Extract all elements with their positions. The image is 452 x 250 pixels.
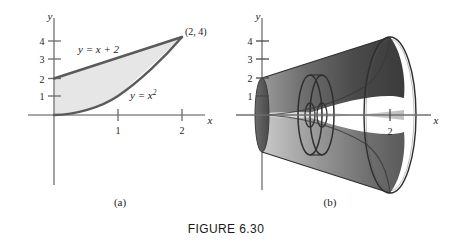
figure-6-30: 1 2 1 2 3 4 x y y = x + 2 y = x2 (2, 4)	[0, 0, 452, 250]
y-tick-label-3: 3	[40, 54, 45, 65]
y-tick-label-2: 2	[248, 73, 253, 84]
x-axis-label: x	[207, 114, 213, 126]
y-tick-label-4: 4	[248, 36, 253, 47]
x-axis-label: x	[433, 114, 439, 126]
panel-b-sublabel: (b)	[300, 196, 360, 208]
y-tick-label-2: 2	[40, 74, 45, 85]
y-tick-label-1: 1	[248, 91, 253, 102]
intersection-point-label: (2, 4)	[185, 26, 207, 38]
panel-b-svg: 2 1 2 3 4 x y	[226, 0, 452, 210]
y-tick-label-1: 1	[40, 91, 45, 102]
panel-b-solid-of-revolution: 2 1 2 3 4 x y	[226, 0, 452, 210]
x-tick-label-2: 2	[180, 125, 185, 136]
line-equation-label: y = x + 2	[77, 43, 120, 55]
y-axis-label: y	[255, 10, 261, 22]
curve-equation-label: y = x2	[129, 88, 157, 101]
y-axis-label: y	[47, 10, 53, 22]
x-tick-label-2: 2	[388, 126, 393, 137]
x-tick-label-1: 1	[116, 125, 121, 136]
panel-a-svg: 1 2 1 2 3 4 x y y = x + 2 y = x2 (2, 4)	[0, 0, 226, 210]
figure-caption: FIGURE 6.30	[0, 222, 452, 236]
curve-equation-exponent: 2	[153, 88, 157, 97]
y-tick-label-4: 4	[40, 36, 45, 47]
y-tick-label-3: 3	[248, 54, 253, 65]
panel-a-sublabel: (a)	[90, 196, 150, 208]
panel-a-region-plot: 1 2 1 2 3 4 x y y = x + 2 y = x2 (2, 4)	[0, 0, 226, 210]
curve-equation-base: y = x	[129, 89, 153, 101]
